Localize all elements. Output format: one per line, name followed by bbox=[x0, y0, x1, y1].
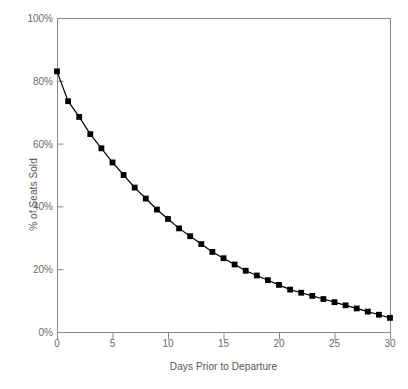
chart-plot-area bbox=[0, 0, 408, 389]
data-point-marker bbox=[187, 233, 193, 239]
data-point-marker bbox=[110, 160, 116, 166]
x-tick-label: 0 bbox=[37, 338, 77, 349]
chart-figure: % of Seats Sold 0%20%40%60%80%100% 05101… bbox=[0, 0, 408, 389]
data-point-marker bbox=[309, 293, 315, 299]
x-axis-title: Days Prior to Departure bbox=[57, 361, 390, 372]
data-point-marker bbox=[121, 172, 127, 178]
data-point-marker bbox=[254, 273, 260, 279]
data-point-marker bbox=[365, 309, 371, 315]
data-point-marker bbox=[54, 68, 60, 74]
plot-frame bbox=[58, 19, 391, 333]
data-point-marker bbox=[243, 268, 249, 274]
x-tick-label: 25 bbox=[315, 338, 355, 349]
data-point-marker bbox=[143, 196, 149, 202]
data-point-marker bbox=[165, 216, 171, 222]
data-point-marker bbox=[265, 277, 271, 283]
data-point-marker bbox=[76, 114, 82, 120]
data-point-marker bbox=[210, 249, 216, 255]
data-point-marker bbox=[321, 296, 327, 302]
x-tick-label: 5 bbox=[93, 338, 133, 349]
series-line bbox=[57, 71, 390, 317]
data-point-marker bbox=[387, 315, 393, 321]
data-point-marker bbox=[298, 290, 304, 296]
data-point-marker bbox=[276, 282, 282, 288]
x-tick-label: 20 bbox=[259, 338, 299, 349]
data-point-marker bbox=[343, 302, 349, 308]
x-tick-label: 30 bbox=[370, 338, 408, 349]
data-point-marker bbox=[287, 287, 293, 293]
data-point-marker bbox=[176, 225, 182, 231]
data-point-marker bbox=[87, 131, 93, 137]
x-tick-label: 10 bbox=[148, 338, 188, 349]
data-point-marker bbox=[232, 262, 238, 268]
data-point-marker bbox=[154, 207, 160, 213]
data-point-marker bbox=[198, 241, 204, 247]
x-tick-label: 15 bbox=[204, 338, 244, 349]
data-point-marker bbox=[65, 98, 71, 104]
data-point-marker bbox=[376, 312, 382, 318]
data-point-marker bbox=[99, 145, 105, 151]
data-point-marker bbox=[132, 185, 138, 191]
data-point-marker bbox=[354, 306, 360, 312]
data-point-marker bbox=[221, 255, 227, 261]
data-point-marker bbox=[332, 299, 338, 305]
